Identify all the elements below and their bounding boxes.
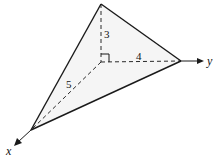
x-axis-label: x xyxy=(5,144,12,158)
label-x-length: 5 xyxy=(66,78,72,90)
y-axis-label: y xyxy=(206,54,213,68)
y-axis-arrowhead-icon xyxy=(197,58,204,64)
tetrahedron-diagram: 3 4 5 y x xyxy=(0,0,217,160)
x-axis xyxy=(18,130,31,142)
label-height: 3 xyxy=(104,28,110,40)
label-y-length: 4 xyxy=(136,50,142,62)
front-face xyxy=(31,4,181,130)
